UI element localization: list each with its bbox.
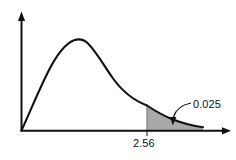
plot-canvas <box>0 0 236 160</box>
area-callout-leader-line <box>174 103 192 117</box>
y-axis-arrowhead <box>18 12 25 22</box>
critical-value-label: 2.56 <box>133 137 155 149</box>
distribution-curve-figure: 2.56 0.025 <box>0 0 236 160</box>
density-curve <box>22 39 204 130</box>
x-axis-arrowhead <box>222 127 231 134</box>
tail-area-label: 0.025 <box>193 98 221 110</box>
